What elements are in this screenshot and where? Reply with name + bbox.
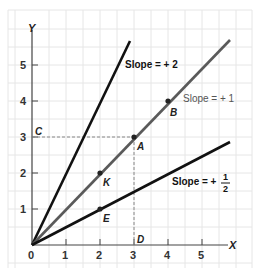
label-c: C [35,126,43,137]
annotation-slope-2: Slope = + 2 [125,59,178,70]
label-e: E [103,213,110,224]
y-tick-3: 3 [20,131,26,143]
line-slope-1 [32,40,230,245]
annotation-half-denominator: 2 [223,184,228,194]
grid [8,10,252,268]
y-tick-4: 4 [20,95,27,107]
point-a [131,134,136,139]
x-tick-3: 3 [130,249,136,261]
line-slope-half [32,142,230,245]
label-d: D [137,234,144,245]
annotation-slope-1: Slope = + 1 [183,93,235,104]
y-tick-5: 5 [20,59,26,71]
y-tick-1: 1 [20,203,26,215]
slope-chart: Y X 0 5 4 3 2 1 1 2 3 4 5 C A B K E D Sl… [0,0,261,278]
y-axis-label: Y [28,22,37,34]
origin-label: 0 [28,249,34,261]
point-k [97,170,102,175]
annotation-half-numerator: 1 [223,172,228,182]
y-tick-2: 2 [20,167,26,179]
x-tick-4: 4 [164,249,171,261]
label-b: B [170,107,177,118]
x-tick-2: 2 [96,249,102,261]
x-axis-label: X [228,239,237,251]
point-b [165,98,170,103]
annotation-slope-half: Slope = + [172,176,217,187]
x-tick-1: 1 [62,249,68,261]
label-k: K [103,177,111,188]
x-tick-5: 5 [198,249,204,261]
point-e [97,206,102,211]
line-slope-2 [32,41,130,245]
label-a: A [136,141,144,152]
